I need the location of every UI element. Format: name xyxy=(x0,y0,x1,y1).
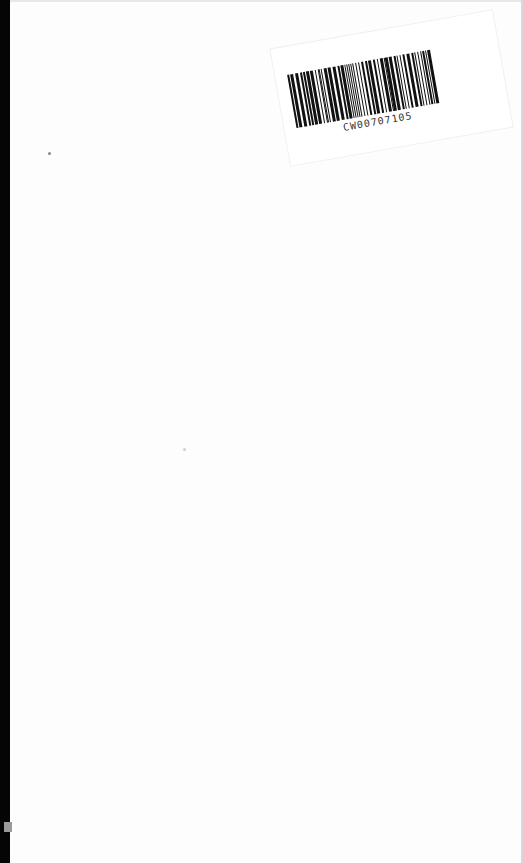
scan-speck xyxy=(48,152,51,155)
scan-corner-mark xyxy=(4,822,12,832)
scan-left-edge xyxy=(0,0,10,863)
barcode-icon xyxy=(287,50,440,129)
scan-speck xyxy=(183,448,186,451)
